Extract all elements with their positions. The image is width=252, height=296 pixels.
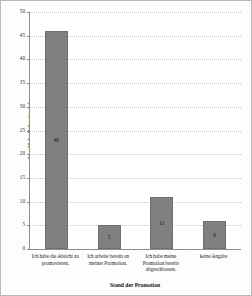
x-axis-category-labels: Ich habe die Absicht zu promovieren.Ich …	[29, 253, 241, 281]
bar-value-label: 6	[204, 233, 225, 238]
bar-value-label: 5	[99, 235, 120, 240]
bar-value-label: 11	[151, 221, 172, 226]
y-axis-tick-label: 10	[20, 199, 25, 204]
bar: 6	[203, 221, 226, 249]
bar-value-label: 46	[46, 138, 67, 143]
y-axis-tick-label: 0	[22, 246, 25, 251]
y-axis-tick	[27, 249, 30, 250]
x-axis-category-label: Ich arbeite bereits an meiner Promotion.	[82, 253, 134, 266]
y-axis-tick-label: 15	[20, 175, 25, 180]
y-axis-tick-label: 25	[20, 128, 25, 133]
bar: 46	[45, 31, 68, 249]
y-axis-tick-label: 50	[20, 9, 25, 14]
plot-area: 05101520253035404550465116	[29, 12, 241, 250]
x-axis-category-label: keine Angabe	[188, 253, 240, 260]
y-axis-tick	[27, 178, 30, 179]
y-axis-tick	[27, 12, 30, 13]
y-axis-tick-label: 20	[20, 152, 25, 157]
chart-figure: Anzahl der Befragten (n) 051015202530354…	[0, 0, 252, 296]
y-axis-tick-label: 5	[22, 223, 25, 228]
y-axis-title-container: Anzahl der Befragten (n)	[1, 12, 13, 250]
x-axis-category-label: Ich habe meine Promotion bereits abgesch…	[135, 253, 187, 273]
y-axis-tick	[27, 154, 30, 155]
x-axis-category-label: Ich habe die Absicht zu promovieren.	[30, 253, 82, 266]
y-gridline	[30, 12, 241, 13]
bar: 5	[98, 225, 121, 249]
y-axis-tick	[27, 36, 30, 37]
x-axis-title: Stand der Promotion	[29, 283, 241, 289]
y-axis-tick	[27, 107, 30, 108]
y-axis-tick-label: 30	[20, 104, 25, 109]
y-axis-tick	[27, 202, 30, 203]
y-axis-tick-label: 45	[20, 33, 25, 38]
y-axis-tick	[27, 225, 30, 226]
y-axis-tick	[27, 83, 30, 84]
y-axis-tick	[27, 59, 30, 60]
y-axis-tick-label: 35	[20, 80, 25, 85]
y-axis-tick	[27, 131, 30, 132]
y-axis-tick-label: 40	[20, 57, 25, 62]
bar: 11	[150, 197, 173, 249]
